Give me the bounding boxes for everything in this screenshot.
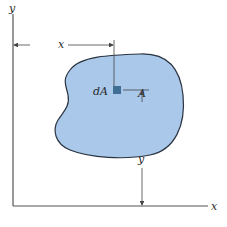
x-dimension-label: x <box>58 38 65 51</box>
differential-element <box>113 86 121 94</box>
element-label: dA <box>93 85 108 98</box>
y-dimension-label: y <box>137 153 145 166</box>
y-axis-label: y <box>8 2 16 15</box>
area-label: A <box>137 87 146 100</box>
area-diagram: y x A dA x y <box>0 0 227 227</box>
x-axis-label: x <box>211 200 218 213</box>
area-region <box>55 54 183 158</box>
